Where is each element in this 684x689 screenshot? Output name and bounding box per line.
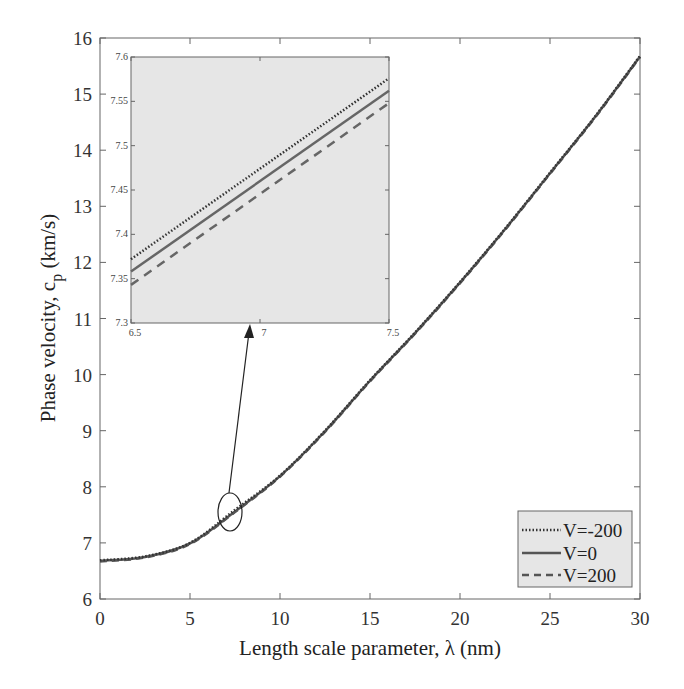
inset-y-tick-label: 7.4 (116, 228, 129, 239)
y-tick-label: 9 (83, 421, 93, 442)
y-tick-label: 13 (73, 196, 92, 217)
y-axis-title: Phase velocity, cp (km/s) (36, 214, 66, 422)
inset-x-tick-label: 7 (262, 327, 267, 338)
x-tick-label: 20 (451, 608, 470, 629)
x-tick-label: 10 (271, 608, 290, 629)
y-axis-title-unit: (km/s) (36, 214, 60, 274)
inset-x-tick-label: 7.5 (387, 327, 400, 338)
phase-velocity-chart: 051015202530678910111213141516 6.577.57.… (0, 0, 684, 689)
legend-label-v-neg200: V=-200 (563, 520, 622, 541)
y-tick-label: 11 (74, 309, 92, 330)
inset-y-tick-label: 7.6 (116, 51, 129, 62)
y-tick-label: 14 (73, 140, 93, 161)
x-tick-label: 30 (631, 608, 650, 629)
x-tick-label: 5 (185, 608, 195, 629)
inset-y-tick-label: 7.45 (111, 184, 129, 195)
y-tick-label: 12 (73, 252, 92, 273)
legend-label-v0: V=0 (563, 543, 597, 564)
y-tick-label: 10 (73, 365, 92, 386)
inset-plot-area (131, 57, 389, 323)
x-tick-label: 25 (541, 608, 560, 629)
y-axis-title-main: Phase velocity, c (36, 282, 60, 422)
y-tick-label: 7 (83, 533, 93, 554)
legend-label-v200: V=200 (563, 565, 616, 586)
inset-y-tick-label: 7.35 (111, 273, 129, 284)
inset-y-tick-label: 7.3 (116, 317, 129, 328)
y-tick-label: 15 (73, 84, 92, 105)
inset-y-tick-label: 7.5 (116, 140, 129, 151)
svg-text:Phase velocity, cp (km/s): Phase velocity, cp (km/s) (36, 214, 66, 422)
x-axis-title: Length scale parameter, λ (nm) (239, 636, 501, 660)
y-tick-label: 8 (83, 477, 93, 498)
inset-x-tick-label: 6.5 (129, 327, 142, 338)
y-tick-label: 16 (73, 28, 92, 49)
legend: V=-200 V=0 V=200 (518, 511, 632, 587)
x-tick-label: 15 (361, 608, 380, 629)
x-tick-label: 0 (95, 608, 105, 629)
y-tick-label: 6 (83, 589, 93, 610)
y-axis-title-sub: p (48, 274, 66, 282)
inset-y-tick-label: 7.55 (111, 95, 129, 106)
